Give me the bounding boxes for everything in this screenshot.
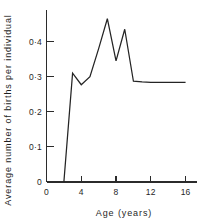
births-series-line — [64, 19, 186, 182]
y-tick-label: 0·3 — [29, 72, 42, 82]
x-tick-label: 8 — [114, 187, 119, 197]
x-tick-label: 16 — [181, 187, 191, 197]
x-tick-label: 12 — [146, 187, 156, 197]
y-tick-label: 0 — [37, 177, 42, 187]
chart-figure: 00·10·20·30·4 0481216 Age (years) Averag… — [0, 0, 211, 223]
chart-axes — [47, 10, 198, 183]
x-tick-label: 4 — [79, 187, 84, 197]
x-tick-label: 0 — [44, 187, 49, 197]
births-by-age-line-chart: 00·10·20·30·4 0481216 Age (years) Averag… — [0, 0, 211, 223]
x-axis-title: Age (years) — [96, 208, 152, 218]
x-axis-tick-labels: 0481216 — [44, 187, 191, 197]
y-tick-label: 0·4 — [29, 37, 42, 47]
y-axis-title: Average number of births per individual — [3, 14, 13, 206]
y-axis-tick-labels: 00·10·20·30·4 — [29, 37, 42, 187]
y-tick-label: 0·1 — [29, 142, 42, 152]
tick-marks — [47, 42, 186, 182]
y-tick-label: 0·2 — [29, 107, 42, 117]
